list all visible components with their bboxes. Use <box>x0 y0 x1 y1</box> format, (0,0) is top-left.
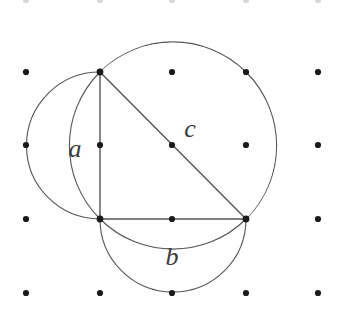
label-leg-b: b <box>166 242 179 271</box>
lattice-dot <box>169 0 175 3</box>
lattice-dot-row-partial-top <box>23 0 321 3</box>
lattice-dot <box>23 0 29 3</box>
lattice-dot <box>243 69 249 75</box>
lattice-dot <box>23 216 29 222</box>
lattice-dot <box>169 142 175 148</box>
lattice-dot <box>243 290 249 296</box>
lattice-dot <box>97 290 103 296</box>
lattice-dot <box>97 69 104 76</box>
lattice-dot <box>23 142 29 148</box>
lattice-dot <box>243 216 250 223</box>
lattice-dot <box>243 142 249 148</box>
lattice-dot <box>169 290 175 296</box>
lattice-dot <box>315 290 321 296</box>
lattice-dot <box>243 0 249 3</box>
label-leg-a: a <box>69 134 82 163</box>
figure-canvas: a b c <box>0 0 338 313</box>
lattice-dot <box>169 69 175 75</box>
pythagorean-circles-figure: a b c <box>0 0 338 313</box>
lattice-dot <box>97 216 104 223</box>
lattice-dot <box>315 0 321 3</box>
lattice-dot <box>315 69 321 75</box>
lattice-dot <box>315 216 321 222</box>
lattice-dot <box>169 216 175 222</box>
lattice-dot <box>97 0 103 3</box>
lattice-dot <box>23 69 29 75</box>
lattice-dot <box>23 290 29 296</box>
label-hypotenuse-c: c <box>184 114 196 143</box>
lattice-dot <box>315 142 321 148</box>
lattice-dot <box>97 142 103 148</box>
